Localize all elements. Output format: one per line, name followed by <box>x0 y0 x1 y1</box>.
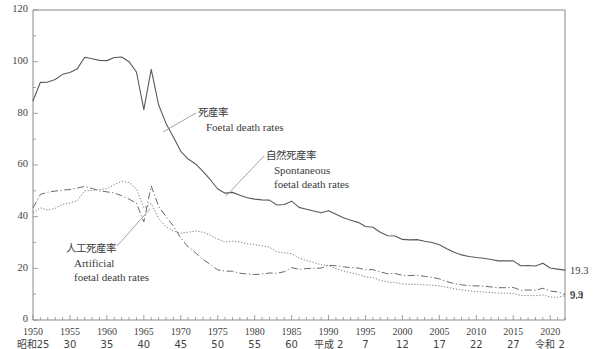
annotation-spontaneous-jp: 自然死産率 <box>266 149 316 161</box>
x-tick-label-year-1980: 1980 <box>245 326 265 337</box>
y-tick-label-0: 0 <box>23 313 28 324</box>
x-tick-label-year-2015: 2015 <box>503 326 523 337</box>
x-axis-ticks <box>33 315 565 320</box>
x-tick-label-year-2020: 2020 <box>540 326 560 337</box>
annotation-spontaneous-en-1: Spontaneous <box>274 164 330 176</box>
x-tick-label-era-1990: 平成 2 <box>314 339 344 349</box>
annotation-total-jp: 死産率 <box>198 106 228 118</box>
annotation-artificial-en-1: Artificial <box>74 257 114 269</box>
leader-line-artificial <box>117 209 150 246</box>
x-tick-label-era-1980: 55 <box>248 339 261 349</box>
y-axis-labels: 020406080100120 <box>12 3 28 324</box>
x-tick-label-era-1950: 昭和25 <box>17 339 50 349</box>
x-tick-label-year-1975: 1975 <box>208 326 228 337</box>
annotation-artificial: 人工死産率 Artificial foetal death rates <box>66 242 149 283</box>
x-tick-label-year-1990: 1990 <box>319 326 339 337</box>
annotation-artificial-en-2: foetal death rates <box>74 271 149 283</box>
x-tick-label-year-1955: 1955 <box>60 326 80 337</box>
foetal-death-rate-chart: 020406080100120 1950昭和251955301960351965… <box>0 0 602 349</box>
x-tick-label-era-1975: 50 <box>211 339 224 349</box>
y-tick-label-80: 80 <box>18 107 29 118</box>
x-axis-labels: 1950昭和2519553019603519654019704519755019… <box>17 326 565 349</box>
end-value-labels: 19.3 9.9 9.4 <box>570 265 588 302</box>
x-tick-label-era-2020: 令和 2 <box>535 338 565 349</box>
y-tick-label-40: 40 <box>18 210 29 221</box>
x-tick-label-year-1995: 1995 <box>356 326 376 337</box>
y-tick-label-120: 120 <box>12 3 28 14</box>
y-axis-ticks <box>33 10 38 320</box>
annotation-spontaneous-en-2: foetal death rates <box>274 178 349 190</box>
annotation-total: 死産率 Foetal death rates <box>198 106 284 133</box>
x-tick-label-era-1965: 40 <box>137 339 150 349</box>
x-tick-label-era-1985: 60 <box>285 339 298 349</box>
x-tick-label-era-1960: 35 <box>101 339 114 349</box>
end-label-artificial: 9.4 <box>570 290 584 301</box>
x-tick-label-year-1965: 1965 <box>134 326 154 337</box>
x-tick-label-year-1960: 1960 <box>97 326 117 337</box>
x-tick-label-era-1970: 45 <box>174 339 187 349</box>
x-tick-label-year-2000: 2000 <box>392 326 412 337</box>
x-tick-label-year-2005: 2005 <box>429 326 449 337</box>
annotation-artificial-jp: 人工死産率 <box>66 242 116 254</box>
x-tick-label-era-1955: 30 <box>64 339 77 349</box>
y-tick-label-100: 100 <box>12 55 28 66</box>
x-tick-label-era-1995: 7 <box>362 339 368 349</box>
leader-line-total <box>163 113 196 132</box>
end-label-total: 19.3 <box>570 265 588 276</box>
x-tick-label-year-2010: 2010 <box>466 326 486 337</box>
leader-line-spontaneous <box>226 156 264 196</box>
x-tick-label-era-2010: 22 <box>470 339 483 349</box>
chart-canvas: 020406080100120 1950昭和251955301960351965… <box>0 0 602 349</box>
x-tick-label-year-1950: 1950 <box>23 326 43 337</box>
annotation-spontaneous: 自然死産率 Spontaneous foetal death rates <box>266 149 349 190</box>
y-tick-label-20: 20 <box>18 262 29 273</box>
y-tick-label-60: 60 <box>18 158 29 169</box>
x-tick-label-year-1985: 1985 <box>282 326 302 337</box>
x-tick-label-era-2005: 17 <box>433 339 446 349</box>
annotation-total-en: Foetal death rates <box>206 121 284 133</box>
x-tick-label-era-2015: 27 <box>507 339 520 349</box>
x-tick-label-year-1970: 1970 <box>171 326 191 337</box>
x-tick-label-era-2000: 12 <box>396 339 409 349</box>
